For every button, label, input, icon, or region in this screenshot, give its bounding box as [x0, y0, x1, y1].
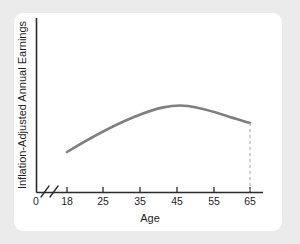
origin-label: 0	[33, 195, 39, 207]
x-tick-label-25: 25	[97, 195, 109, 207]
earnings-age-chart: 0 18 25 35 45 55 65 Age Inflation-Adjust…	[0, 0, 300, 244]
figure-root: 0 18 25 35 45 55 65 Age Inflation-Adjust…	[0, 0, 300, 244]
x-tick-label-18: 18	[61, 195, 73, 207]
axis-break-slash-second	[50, 186, 58, 197]
x-tick-label-45: 45	[171, 195, 183, 207]
x-tick-label-65: 65	[244, 195, 256, 207]
axis-break-slash-first	[41, 186, 49, 197]
x-tick-label-35: 35	[134, 195, 146, 207]
earnings-curve	[67, 105, 250, 152]
x-axis-title: Age	[140, 212, 160, 224]
x-tick-label-55: 55	[208, 195, 220, 207]
y-axis-title: Inflation-Adjusted Annual Earnings	[16, 20, 28, 189]
